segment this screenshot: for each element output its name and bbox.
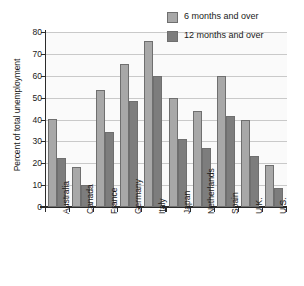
y-axis-tick-label: 70 — [4, 49, 42, 59]
x-axis-tick-mark — [117, 208, 118, 212]
y-axis-tick-label: 60 — [4, 71, 42, 81]
bar — [153, 76, 162, 207]
x-axis-tick-mark — [45, 208, 46, 212]
bar-group — [144, 32, 162, 207]
y-axis-ticks: 01020304050607080 — [0, 0, 42, 286]
y-axis-tick-label: 0 — [4, 202, 42, 212]
x-axis-tick-mark — [93, 208, 94, 212]
bar — [169, 98, 178, 207]
x-axis-tick-mark — [69, 208, 70, 212]
bar-chart: Percent of total unemployment 0102030405… — [0, 0, 304, 286]
y-axis-tick-label: 20 — [4, 158, 42, 168]
y-axis-tick-label: 10 — [4, 180, 42, 190]
bar — [144, 41, 153, 207]
legend-label: 6 months and over — [184, 11, 259, 21]
y-axis-line — [45, 30, 46, 208]
bar-group — [265, 32, 283, 207]
bar-group — [217, 32, 235, 207]
x-axis-tick-label: U.S. — [278, 197, 288, 214]
bar — [96, 90, 105, 207]
bar — [265, 165, 274, 207]
y-axis-tick-label: 30 — [4, 136, 42, 146]
x-axis-tick-mark — [214, 208, 215, 212]
bar-group — [241, 32, 259, 207]
bar — [217, 76, 226, 207]
bar-group — [96, 32, 114, 207]
x-axis-tick-mark — [166, 208, 167, 212]
y-axis-tick-label: 50 — [4, 93, 42, 103]
bar — [72, 167, 81, 207]
bar — [48, 119, 57, 207]
x-axis-tick-mark — [238, 208, 239, 212]
x-axis-tick-mark — [190, 208, 191, 212]
legend-label: 12 months and over — [184, 30, 264, 40]
bar — [241, 120, 250, 207]
bar-group — [72, 32, 90, 207]
y-axis-tick-label: 40 — [4, 115, 42, 125]
bar — [193, 111, 202, 207]
x-axis-tick-mark — [141, 208, 142, 212]
legend-swatch-icon — [167, 12, 178, 23]
legend-swatch-icon — [167, 31, 178, 42]
bar — [120, 64, 129, 207]
y-axis-tick-label: 80 — [4, 27, 42, 37]
bar-group — [169, 32, 187, 207]
x-axis-tick-mark — [262, 208, 263, 212]
